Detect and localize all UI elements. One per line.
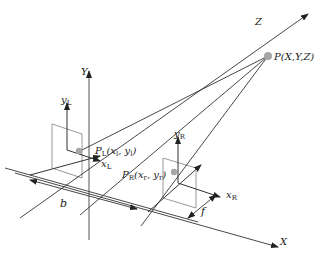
label-right-x: xR <box>226 189 238 202</box>
label-baseline-b: b <box>60 197 67 210</box>
ray-right-camera <box>141 56 268 226</box>
label-left-y: yL <box>60 94 72 107</box>
label-left-x: xL <box>101 158 112 171</box>
left-image-point <box>76 148 82 154</box>
baseline-lower-line <box>5 168 198 222</box>
object-point-p <box>264 52 272 60</box>
label-left-image-point: PL(xl, yl) <box>94 145 136 158</box>
ray-left-to-p <box>78 56 268 152</box>
label-x-axis: X <box>279 236 288 247</box>
label-y-axis: Y <box>81 66 89 77</box>
label-focal-f: f <box>200 205 207 218</box>
baseline-dimension <box>30 180 137 209</box>
stereo-vision-diagram: Z Y X P(X,Y,Z) yL xL PL(xl, yl) yR xR PR… <box>0 0 322 260</box>
label-right-image-point: PR(xr, yr) <box>121 169 166 182</box>
label-right-y: yR <box>173 128 186 141</box>
right-image-point <box>171 169 177 175</box>
world-z-axis <box>20 14 308 218</box>
label-z-axis: Z <box>254 16 263 27</box>
label-object-point: P(X,Y,Z) <box>273 51 314 62</box>
world-x-axis <box>15 173 278 247</box>
right-x-axis <box>178 183 220 197</box>
